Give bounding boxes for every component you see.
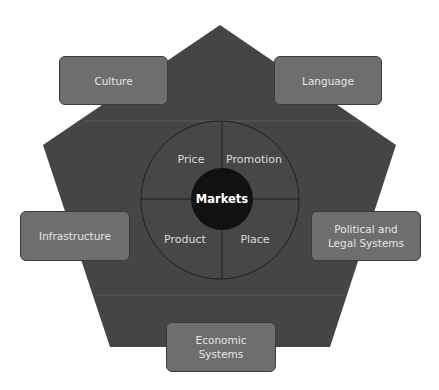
economic-label-line2: Systems (199, 347, 244, 361)
culture-box: Culture (59, 56, 168, 105)
culture-label: Culture (94, 74, 132, 88)
political-label-line2: Legal Systems (328, 236, 404, 250)
economic-label-line1: Economic (196, 333, 247, 347)
political-legal-box: Political and Legal Systems (311, 211, 421, 261)
price-label: Price (178, 153, 205, 166)
product-label: Product (164, 233, 206, 246)
place-label: Place (240, 233, 269, 246)
infrastructure-label: Infrastructure (39, 229, 111, 243)
infrastructure-box: Infrastructure (20, 211, 130, 261)
political-label-line1: Political and (334, 222, 397, 236)
markets-label: Markets (196, 192, 248, 206)
promotion-label: Promotion (226, 153, 282, 166)
language-label: Language (302, 74, 354, 88)
economic-box: Economic Systems (166, 322, 276, 372)
marketing-environment-diagram: Markets Price Promotion Product Place Cu… (0, 0, 439, 390)
language-box: Language (274, 56, 382, 105)
